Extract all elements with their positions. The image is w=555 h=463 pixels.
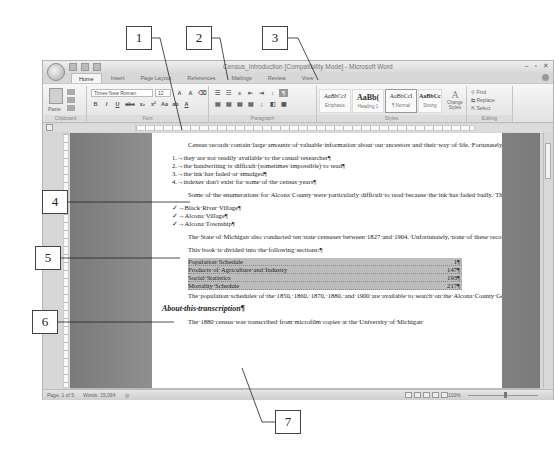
sort-icon[interactable]: ↕ xyxy=(268,89,277,97)
horizontal-ruler[interactable] xyxy=(135,125,475,131)
help-icon[interactable] xyxy=(542,74,549,81)
paragraph-intro: Census·records·contain·large·amounts·of·… xyxy=(162,141,492,149)
superscript-button[interactable]: x² xyxy=(149,100,158,108)
zoom-level[interactable]: 100% xyxy=(448,392,461,398)
style-emphasis[interactable]: AaBbCcI Emphasis xyxy=(319,89,351,113)
style-normal[interactable]: AaBbCcI ¶ Normal xyxy=(385,89,417,113)
borders-icon[interactable]: ▦ xyxy=(279,100,288,108)
numbering-icon[interactable]: ☷ xyxy=(224,89,233,97)
save-icon[interactable] xyxy=(69,63,77,71)
paragraph-population-schedules: The·population·schedules·of·the·1850,·18… xyxy=(162,292,492,300)
bullets-icon[interactable]: ☰ xyxy=(213,89,222,97)
tab-references[interactable]: References xyxy=(180,73,222,83)
close-button[interactable]: ✕ xyxy=(543,62,549,70)
numbered-list: 1.→they·are·not·readily·available·to·the… xyxy=(162,154,492,186)
callout-2: 2 xyxy=(186,26,212,50)
replace-button[interactable]: ⇆ Replace xyxy=(471,97,495,103)
line-spacing-icon[interactable]: ↨ xyxy=(257,100,266,108)
change-styles-icon: A xyxy=(445,89,465,100)
highlight-button[interactable]: ab xyxy=(171,100,180,108)
outline-view-icon[interactable] xyxy=(432,392,439,398)
print-layout-view-icon[interactable] xyxy=(405,392,412,398)
document-page[interactable]: Census·records·contain·large·amounts·of·… xyxy=(152,133,502,388)
web-layout-view-icon[interactable] xyxy=(423,392,430,398)
draft-view-icon[interactable] xyxy=(441,392,448,398)
tab-view[interactable]: View xyxy=(295,73,321,83)
paragraph-enumerations: Some·of·the·enumerations·for·Alcona·Coun… xyxy=(162,191,492,199)
tab-page-layout[interactable]: Page Layout xyxy=(133,73,178,83)
tab-review[interactable]: Review xyxy=(261,73,293,83)
shading-icon[interactable]: ◧ xyxy=(268,100,277,108)
font-group-label: Font xyxy=(87,115,208,122)
vertical-scroll-thumb[interactable] xyxy=(545,143,551,179)
find-button[interactable]: ⚲ Find xyxy=(471,89,486,95)
callout-5: 5 xyxy=(35,246,61,270)
document-workspace: Census·records·contain·large·amounts·of·… xyxy=(70,133,540,388)
undo-icon[interactable] xyxy=(81,63,89,71)
zoom-slider-knob[interactable] xyxy=(504,392,507,398)
copy-icon[interactable] xyxy=(67,97,75,103)
callout-4: 4 xyxy=(42,190,68,214)
vertical-scrollbar[interactable] xyxy=(543,133,552,388)
clipboard-group-label: Clipboard xyxy=(45,115,86,122)
show-hide-paragraph-icon[interactable]: ¶ xyxy=(279,89,288,97)
editing-group: ⚲ Find ⇆ Replace ⇱ Select Editing xyxy=(467,86,513,122)
select-button[interactable]: ⇱ Select xyxy=(471,105,490,111)
full-screen-reading-view-icon[interactable] xyxy=(414,392,421,398)
paste-icon[interactable] xyxy=(49,88,63,104)
tab-mailings[interactable]: Mailings xyxy=(224,73,258,83)
underline-button[interactable]: U xyxy=(113,100,122,108)
page-count[interactable]: Page: 1 of 5 xyxy=(47,392,74,398)
office-button[interactable] xyxy=(47,63,65,81)
quick-access-toolbar xyxy=(69,63,101,71)
status-bar: Page: 1 of 5 Words: 15,094 ◎ 100% xyxy=(43,389,553,400)
change-styles-button[interactable]: A Change Styles xyxy=(445,89,465,110)
strikethrough-button[interactable]: abc xyxy=(124,100,136,108)
font-name-dropdown[interactable]: Times New Roman xyxy=(91,89,153,97)
justify-icon[interactable]: ▤ xyxy=(246,100,255,108)
editing-group-label: Editing xyxy=(467,115,512,122)
format-painter-icon[interactable] xyxy=(67,105,75,111)
multilevel-list-icon[interactable]: ≡ xyxy=(235,89,244,97)
align-left-icon[interactable]: ▤ xyxy=(213,100,222,108)
sections-table: Population·Schedule1¶ Products·of·Agricu… xyxy=(188,258,462,290)
align-right-icon[interactable]: ▤ xyxy=(235,100,244,108)
proofing-icon[interactable]: ◎ xyxy=(125,392,129,398)
align-center-icon[interactable]: ▤ xyxy=(224,100,233,108)
decrease-indent-icon[interactable]: ⇤ xyxy=(246,89,255,97)
increase-indent-icon[interactable]: ⇥ xyxy=(257,89,266,97)
paragraph-group: ☰ ☷ ≡ ⇤ ⇥ ↕ ¶ ▤ ▤ ▤ ▤ ↨ ◧ ▦ Paragraph xyxy=(209,86,317,122)
tab-selector[interactable] xyxy=(46,124,53,131)
grow-font-button[interactable]: A xyxy=(175,89,184,97)
word-count[interactable]: Words: 15,094 xyxy=(83,392,115,398)
style-heading-1[interactable]: AaBb( Heading 1 xyxy=(352,89,384,113)
callout-6: 6 xyxy=(32,310,58,334)
tab-insert[interactable]: Insert xyxy=(104,73,132,83)
tab-home[interactable]: Home xyxy=(71,73,102,83)
style-strong[interactable]: AaBbCcI Strong xyxy=(418,89,442,113)
italic-button[interactable]: I xyxy=(102,100,111,108)
font-size-dropdown[interactable]: 12 xyxy=(155,89,171,97)
zoom-slider[interactable] xyxy=(468,395,538,396)
change-case-button[interactable]: Aa xyxy=(160,100,169,108)
redo-icon[interactable] xyxy=(93,63,101,71)
cut-icon[interactable] xyxy=(67,89,75,95)
minimize-button[interactable]: – xyxy=(525,62,529,70)
paste-button[interactable]: Paste xyxy=(48,106,61,112)
list-item: 4.→indexes·don't·exist·for·some·of·the·c… xyxy=(162,178,492,186)
clipboard-group: Paste Clipboard xyxy=(45,86,87,122)
list-item: ✓→Black·River·Village¶ xyxy=(162,204,492,212)
bold-button[interactable]: B xyxy=(91,100,100,108)
horizontal-ruler-row xyxy=(43,124,553,132)
shrink-font-button[interactable]: A xyxy=(186,89,195,97)
font-group: Times New Roman 12 A A ⌫ B I U abc x₂ x²… xyxy=(87,86,209,122)
font-color-button[interactable]: A xyxy=(182,100,191,108)
clear-formatting-icon[interactable]: ⌫ xyxy=(197,89,206,97)
view-buttons xyxy=(405,392,448,398)
list-item: 2.→the·handwriting·is·difficult·(sometim… xyxy=(162,162,492,170)
maximize-button[interactable]: ▫ xyxy=(535,62,537,70)
paragraph-group-label: Paragraph xyxy=(209,115,316,122)
list-item: 1.→they·are·not·readily·available·to·the… xyxy=(162,154,492,162)
subscript-button[interactable]: x₂ xyxy=(138,100,147,108)
styles-group-label: Styles xyxy=(317,115,466,122)
